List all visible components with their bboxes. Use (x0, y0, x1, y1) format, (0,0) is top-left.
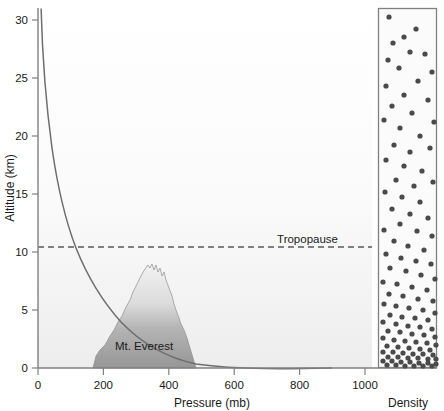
mt-everest-label: Mt. Everest (115, 340, 174, 352)
density-panel-title: Density (388, 396, 428, 410)
y-tick-label: 25 (15, 72, 28, 84)
y-tick-label: 5 (22, 304, 28, 316)
y-tick-label: 0 (22, 362, 28, 374)
x-tick-label: 1000 (352, 379, 378, 391)
x-tick-label: 800 (290, 379, 309, 391)
x-tick-label: 400 (159, 379, 178, 391)
x-tick-label: 0 (35, 379, 41, 391)
y-tick-label: 20 (15, 130, 28, 142)
x-tick-label: 200 (94, 379, 113, 391)
y-tick-label: 10 (15, 246, 28, 258)
y-axis-ticks (32, 20, 38, 368)
x-axis-tick-labels: 0 200 400 600 800 1000 (35, 379, 378, 391)
x-axis-title: Pressure (mb) (174, 396, 250, 410)
tropopause-label: Tropopause (277, 233, 338, 245)
x-tick-label: 600 (225, 379, 244, 391)
y-tick-label: 30 (15, 14, 28, 26)
y-tick-label: 15 (15, 188, 28, 200)
density-panel (379, 9, 439, 369)
chart-canvas: 0 5 10 15 20 25 30 0 200 400 600 800 100… (0, 0, 444, 411)
y-axis-tick-labels: 0 5 10 15 20 25 30 (15, 14, 28, 374)
plot-background (38, 8, 372, 368)
y-axis-title: Altitude (km) (3, 154, 17, 221)
atmosphere-pressure-figure: 0 5 10 15 20 25 30 0 200 400 600 800 100… (0, 0, 444, 411)
